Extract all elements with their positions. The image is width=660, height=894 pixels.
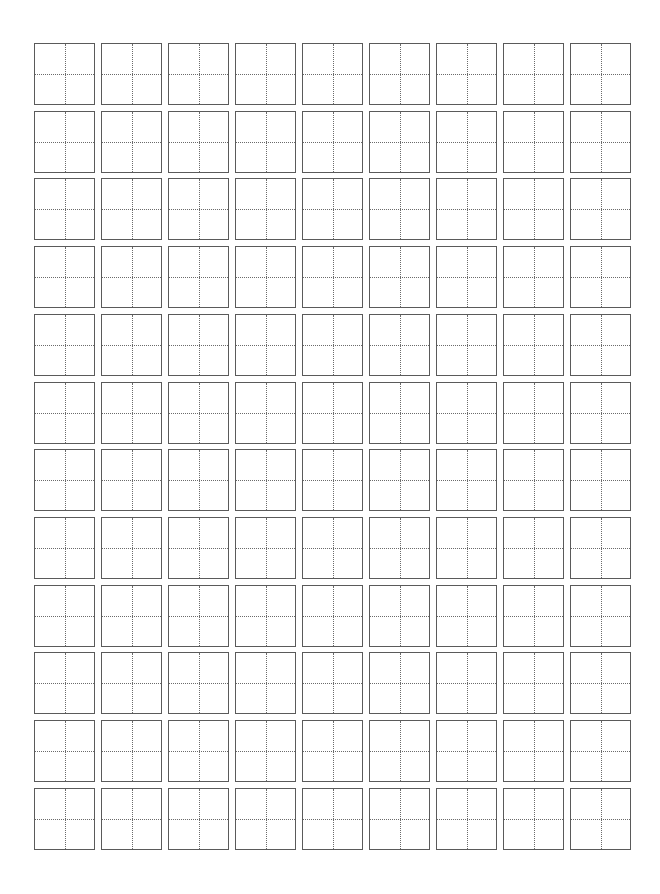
horizontal-guide-line	[169, 819, 228, 820]
horizontal-guide-line	[303, 345, 362, 346]
horizontal-guide-line	[35, 74, 94, 75]
practice-cell	[302, 652, 363, 714]
practice-cell	[436, 517, 497, 579]
horizontal-guide-line	[169, 142, 228, 143]
practice-cell	[34, 178, 95, 240]
horizontal-guide-line	[504, 683, 563, 684]
practice-cell	[235, 43, 296, 105]
horizontal-guide-line	[504, 548, 563, 549]
horizontal-guide-line	[102, 413, 161, 414]
practice-cell	[235, 720, 296, 782]
horizontal-guide-line	[504, 74, 563, 75]
horizontal-guide-line	[169, 751, 228, 752]
practice-cell	[369, 449, 430, 511]
horizontal-guide-line	[370, 74, 429, 75]
horizontal-guide-line	[303, 277, 362, 278]
horizontal-guide-line	[236, 548, 295, 549]
practice-cell	[168, 788, 229, 850]
practice-cell	[570, 43, 631, 105]
practice-cell	[302, 449, 363, 511]
practice-cell	[436, 788, 497, 850]
horizontal-guide-line	[236, 413, 295, 414]
practice-cell	[570, 585, 631, 647]
horizontal-guide-line	[437, 277, 496, 278]
practice-cell	[369, 314, 430, 376]
horizontal-guide-line	[169, 413, 228, 414]
horizontal-guide-line	[35, 548, 94, 549]
horizontal-guide-line	[437, 683, 496, 684]
horizontal-guide-line	[571, 548, 630, 549]
practice-cell	[302, 517, 363, 579]
practice-cell	[369, 720, 430, 782]
practice-cell	[168, 517, 229, 579]
horizontal-guide-line	[236, 751, 295, 752]
practice-cell	[369, 585, 430, 647]
horizontal-guide-line	[437, 819, 496, 820]
practice-cell	[34, 382, 95, 444]
practice-cell	[436, 314, 497, 376]
horizontal-guide-line	[303, 616, 362, 617]
horizontal-guide-line	[504, 819, 563, 820]
practice-cell	[168, 246, 229, 308]
horizontal-guide-line	[102, 819, 161, 820]
practice-cell	[503, 246, 564, 308]
practice-grid-sheet	[0, 0, 660, 894]
horizontal-guide-line	[102, 74, 161, 75]
practice-cell	[101, 43, 162, 105]
horizontal-guide-line	[504, 209, 563, 210]
practice-cell	[34, 788, 95, 850]
horizontal-guide-line	[370, 345, 429, 346]
horizontal-guide-line	[102, 209, 161, 210]
practice-cell	[302, 246, 363, 308]
horizontal-guide-line	[571, 74, 630, 75]
practice-cell	[570, 314, 631, 376]
practice-cell	[570, 111, 631, 173]
horizontal-guide-line	[504, 616, 563, 617]
practice-cell	[302, 382, 363, 444]
horizontal-guide-line	[35, 413, 94, 414]
practice-cell	[570, 382, 631, 444]
horizontal-guide-line	[303, 751, 362, 752]
horizontal-guide-line	[370, 277, 429, 278]
practice-cell	[101, 246, 162, 308]
practice-cell	[369, 178, 430, 240]
horizontal-guide-line	[437, 345, 496, 346]
practice-cell	[235, 314, 296, 376]
practice-cell	[34, 652, 95, 714]
horizontal-guide-line	[169, 277, 228, 278]
practice-cell	[34, 449, 95, 511]
horizontal-guide-line	[35, 345, 94, 346]
horizontal-guide-line	[370, 209, 429, 210]
practice-cell	[101, 652, 162, 714]
practice-cell	[570, 449, 631, 511]
horizontal-guide-line	[571, 277, 630, 278]
practice-cell	[34, 111, 95, 173]
horizontal-guide-line	[35, 683, 94, 684]
horizontal-guide-line	[303, 819, 362, 820]
practice-cell	[503, 178, 564, 240]
horizontal-guide-line	[370, 819, 429, 820]
practice-cell	[34, 517, 95, 579]
horizontal-guide-line	[102, 345, 161, 346]
horizontal-guide-line	[571, 209, 630, 210]
horizontal-guide-line	[370, 548, 429, 549]
horizontal-guide-line	[35, 751, 94, 752]
horizontal-guide-line	[571, 751, 630, 752]
practice-cell	[436, 652, 497, 714]
horizontal-guide-line	[571, 616, 630, 617]
horizontal-guide-line	[370, 683, 429, 684]
practice-cell	[101, 382, 162, 444]
horizontal-guide-line	[437, 616, 496, 617]
practice-cell	[302, 314, 363, 376]
horizontal-guide-line	[35, 277, 94, 278]
horizontal-guide-line	[571, 345, 630, 346]
horizontal-guide-line	[571, 819, 630, 820]
practice-cell	[436, 246, 497, 308]
horizontal-guide-line	[102, 277, 161, 278]
practice-cell	[436, 720, 497, 782]
horizontal-guide-line	[303, 548, 362, 549]
horizontal-guide-line	[35, 142, 94, 143]
horizontal-guide-line	[370, 480, 429, 481]
practice-cell	[34, 585, 95, 647]
horizontal-guide-line	[437, 548, 496, 549]
